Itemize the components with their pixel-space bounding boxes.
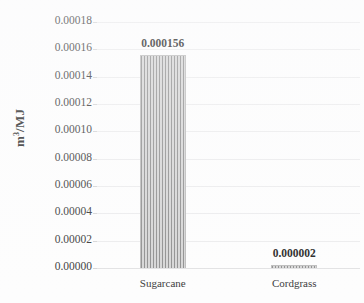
- y-axis-tick-label: 0.00014: [0, 69, 92, 81]
- gridline: [97, 241, 360, 242]
- y-axis-tick-label: 0.00010: [0, 123, 92, 135]
- bar-value-label: 0.000156: [103, 37, 223, 49]
- y-axis-tick-labels: 0.000180.000160.000140.000120.000100.000…: [0, 0, 92, 303]
- y-axis-tick-label: 0.00004: [0, 205, 92, 217]
- y-axis-tick-label: 0.00018: [0, 14, 92, 26]
- x-axis-category-label: Sugarcane: [103, 277, 223, 289]
- gridline: [97, 186, 360, 187]
- y-axis-tick-label: 0.00008: [0, 151, 92, 163]
- plot-area: [97, 22, 360, 268]
- bar[interactable]: [271, 265, 317, 268]
- gridline: [97, 77, 360, 78]
- y-axis-tick-label: 0.00000: [0, 260, 92, 272]
- bar-chart: m3/MJ 0.000180.000160.000140.000120.0001…: [0, 0, 364, 303]
- gridline: [97, 213, 360, 214]
- bar-value-label: 0.000002: [234, 247, 354, 259]
- bar[interactable]: [140, 55, 186, 268]
- y-axis-tick-label: 0.00002: [0, 233, 92, 245]
- gridline: [97, 22, 360, 23]
- gridline: [97, 268, 360, 269]
- y-axis-tick-label: 0.00016: [0, 41, 92, 53]
- y-axis-tick-label: 0.00012: [0, 96, 92, 108]
- x-axis-category-label: Cordgrass: [234, 277, 354, 289]
- gridline: [97, 131, 360, 132]
- y-axis-tick-label: 0.00006: [0, 178, 92, 190]
- gridline: [97, 49, 360, 50]
- gridline: [97, 104, 360, 105]
- gridline: [97, 159, 360, 160]
